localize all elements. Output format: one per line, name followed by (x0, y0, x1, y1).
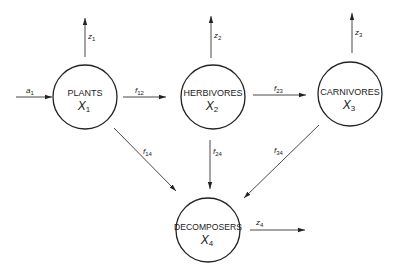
flow-label-z4: z4 (255, 218, 264, 228)
flow-label-f34: f34 (274, 146, 284, 156)
node-herbivores: HERBIVORES X2 (181, 65, 245, 129)
flow-z2: z2 (211, 16, 222, 58)
arrow-icon (244, 125, 319, 198)
node-carnivores: CARNIVORES X3 (318, 62, 382, 126)
flow-z4: z4 (250, 218, 305, 230)
flow-label-a1: a1 (26, 86, 34, 96)
ecosystem-flow-diagram: a1 z1 z2 z3 z4 f12 f23 f14 (0, 0, 397, 271)
flow-f34: f34 (244, 125, 319, 198)
flow-label-z3: z3 (354, 28, 363, 38)
flow-f23: f23 (253, 84, 306, 95)
flow-label-f12: f12 (135, 86, 145, 96)
flow-label-f23: f23 (274, 84, 284, 94)
node-label-plants: PLANTS (67, 88, 102, 98)
flow-f12: f12 (123, 86, 166, 97)
flow-z3: z3 (352, 13, 363, 53)
flow-f14: f14 (114, 128, 176, 191)
flow-f24: f24 (210, 140, 223, 189)
flow-label-f24: f24 (213, 147, 223, 157)
flow-label-z1: z1 (87, 32, 96, 42)
node-decomposers: DECOMPOSERS X4 (174, 198, 242, 262)
node-plants: PLANTS X1 (53, 65, 117, 129)
flow-label-z2: z2 (213, 31, 222, 41)
node-label-decomposers: DECOMPOSERS (174, 222, 242, 232)
arrow-icon (114, 128, 176, 191)
node-label-herbivores: HERBIVORES (183, 88, 242, 98)
node-label-carnivores: CARNIVORES (320, 87, 380, 97)
flow-z1: z1 (85, 18, 96, 57)
flow-a1: a1 (16, 86, 52, 97)
flow-label-f14: f14 (143, 147, 153, 157)
